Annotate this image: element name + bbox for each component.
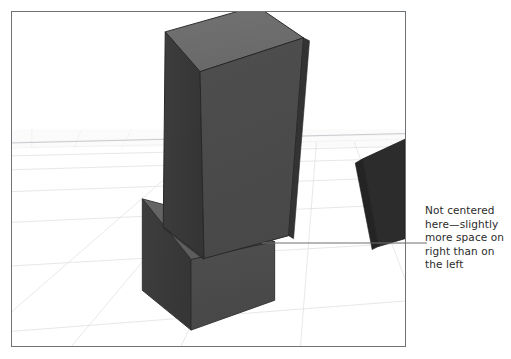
annotation-line-5: the left xyxy=(425,258,511,272)
3d-modeling-viewport[interactable] xyxy=(11,11,406,347)
main-column[interactable] xyxy=(163,12,309,259)
figure-root: Not centered here—slightly more space on… xyxy=(0,0,511,359)
annotation-line-3: more space on xyxy=(425,231,511,245)
callout-not-centered: Not centered here—slightly more space on… xyxy=(425,204,511,272)
viewport-scene xyxy=(12,12,405,346)
annotation-line-1: Not centered xyxy=(425,204,511,218)
annotation-line-2: here—slightly xyxy=(425,218,511,232)
annotation-line-4: right than on xyxy=(425,245,511,259)
annotation-leader-line xyxy=(255,234,431,254)
